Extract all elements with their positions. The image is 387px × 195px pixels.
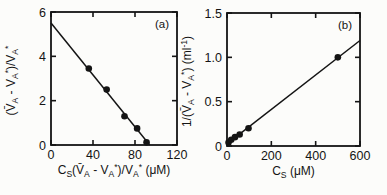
x-tick-label: 600 xyxy=(350,149,371,163)
data-point xyxy=(335,54,342,61)
y-tick-label: 6 xyxy=(39,6,46,20)
panel-label: (a) xyxy=(155,18,169,30)
x-tick-label: 120 xyxy=(167,148,188,162)
x-tick-label: 0 xyxy=(224,149,231,163)
data-point xyxy=(134,125,141,132)
figure-canvas: 040801200246(a)CS(V̄A - VA*)/VA* (μM)(V̄… xyxy=(0,0,387,195)
x-tick-label: 400 xyxy=(305,149,326,163)
y-tick-label: 0 xyxy=(215,140,222,154)
y-axis-label: (V̄A - VA*)/VA* xyxy=(3,45,20,116)
x-tick-label: 80 xyxy=(128,148,142,162)
x-axis-label: CS (μM) xyxy=(272,164,315,180)
y-tick-label: 1.5 xyxy=(205,7,222,21)
two-panel-scatter-figure: 040801200246(a)CS(V̄A - VA*)/VA* (μM)(V̄… xyxy=(0,0,387,195)
data-point xyxy=(103,86,110,93)
panel-label: (b) xyxy=(338,19,352,31)
x-axis-label: CS(V̄A - VA*)/VA* (μM) xyxy=(58,162,171,179)
data-point xyxy=(121,113,128,120)
y-tick-label: 1.0 xyxy=(205,51,222,65)
x-tick-label: 200 xyxy=(261,149,282,163)
y-tick-label: 2 xyxy=(39,94,46,108)
y-tick-label: 0.5 xyxy=(205,95,222,109)
data-point xyxy=(143,139,150,146)
plot-frame xyxy=(51,12,177,145)
x-tick-label: 0 xyxy=(48,148,55,162)
data-point xyxy=(86,65,93,72)
data-point xyxy=(245,125,252,132)
y-tick-label: 0 xyxy=(39,139,46,153)
x-tick-label: 40 xyxy=(86,148,100,162)
data-point xyxy=(236,131,243,138)
y-tick-label: 4 xyxy=(39,50,46,64)
y-axis-label: 1/(V̄A - VA*) (ml-1) xyxy=(179,36,196,127)
